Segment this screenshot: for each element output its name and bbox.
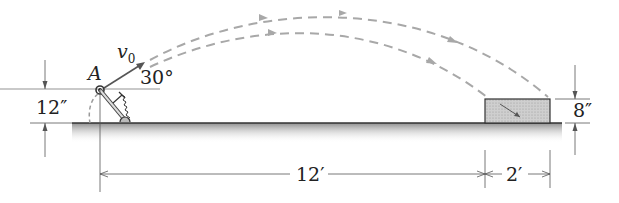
distance-main-label: 12′ (296, 165, 325, 184)
velocity-symbol: v (117, 40, 128, 62)
swing-arc (89, 94, 98, 123)
velocity-subscript: 0 (128, 52, 136, 66)
target-box (485, 99, 550, 123)
point-a-label: A (88, 64, 102, 83)
angle-label: 30° (140, 68, 174, 87)
height-box-label: 8″ (573, 101, 592, 120)
dimension-bottom (100, 150, 550, 188)
distance-box-label: 2′ (506, 165, 522, 184)
projectile-diagram: A v0 30° 12″ 8″ 12′ 2′ (0, 0, 619, 203)
trajectory-paths (150, 17, 548, 97)
velocity-arrow (104, 62, 145, 88)
launcher-mechanism (96, 86, 130, 122)
height-launch-label: 12″ (36, 98, 67, 117)
ground (72, 123, 562, 143)
velocity-label: v0 (117, 42, 135, 65)
